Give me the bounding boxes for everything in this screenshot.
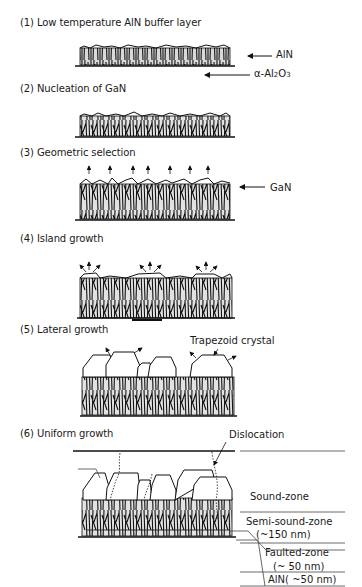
growth-arrows xyxy=(89,166,208,174)
zone-dividers xyxy=(240,451,345,586)
stage-4-figure xyxy=(77,262,235,320)
stage-2-figure xyxy=(75,112,235,137)
trapezoid-pointer xyxy=(214,349,218,355)
aln-layer xyxy=(80,48,230,65)
stage-1-figure xyxy=(75,45,272,75)
growth-diagram xyxy=(0,0,362,587)
stage-5-figure xyxy=(80,348,237,416)
dislocation-pointer xyxy=(214,442,226,465)
trapezoid-crystals xyxy=(83,352,232,377)
stage-6-figure xyxy=(73,442,345,586)
stage-3-figure xyxy=(75,166,265,220)
island-arrows xyxy=(80,262,217,272)
